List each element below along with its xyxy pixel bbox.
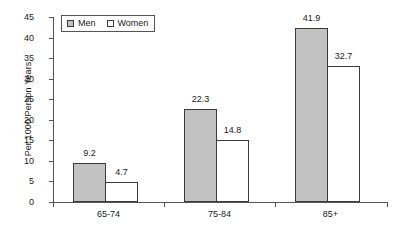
y-tick-label-20: 20 <box>4 116 34 125</box>
y-tick-label-25: 25 <box>4 95 34 104</box>
x-axis-line <box>53 202 388 203</box>
legend-label-men: Men <box>78 19 96 28</box>
bar-value-men-75-84: 22.3 <box>178 95 223 104</box>
x-tick-1 <box>164 203 165 207</box>
plot-area: 0 5 10 15 20 25 30 35 40 45 9.2 4.7 22.3 <box>53 17 388 203</box>
y-tick-15 <box>49 140 53 141</box>
x-category-label-0: 65-74 <box>86 210 131 219</box>
y-tick-40 <box>49 38 53 39</box>
bar-women-75-84 <box>216 140 249 202</box>
legend-swatch-women-icon <box>107 20 114 27</box>
y-tick-label-45: 45 <box>4 13 34 22</box>
x-category-label-1: 75-84 <box>197 210 242 219</box>
x-tick-0 <box>53 203 54 207</box>
y-tick-label-35: 35 <box>4 54 34 63</box>
chart-legend: Men Women <box>61 15 155 32</box>
y-axis-line <box>53 17 54 203</box>
bar-women-85-plus <box>327 66 360 202</box>
y-tick-35 <box>49 58 53 59</box>
bar-value-women-65-74: 4.7 <box>99 168 144 177</box>
bar-men-75-84 <box>184 109 217 202</box>
legend-entry-women: Women <box>107 19 149 28</box>
y-tick-20 <box>49 120 53 121</box>
bar-value-men-65-74: 9.2 <box>67 149 112 158</box>
x-category-label-2: 85+ <box>308 210 353 219</box>
y-tick-label-40: 40 <box>4 34 34 43</box>
bar-value-women-75-84: 14.8 <box>210 126 255 135</box>
x-tick-3 <box>387 203 388 207</box>
y-tick-5 <box>49 181 53 182</box>
y-tick-label-30: 30 <box>4 75 34 84</box>
y-tick-45 <box>49 17 53 18</box>
legend-swatch-men-icon <box>67 20 74 27</box>
y-tick-10 <box>49 161 53 162</box>
y-tick-25 <box>49 99 53 100</box>
x-tick-2 <box>275 203 276 207</box>
bar-chart: Per 1000 Person Years 0 5 10 15 20 25 30… <box>0 0 401 229</box>
y-tick-label-10: 10 <box>4 157 34 166</box>
bar-value-men-85-plus: 41.9 <box>289 14 334 23</box>
y-tick-label-15: 15 <box>4 136 34 145</box>
y-tick-30 <box>49 79 53 80</box>
y-tick-label-5: 5 <box>4 177 34 186</box>
bar-value-women-85-plus: 32.7 <box>321 52 366 61</box>
y-tick-label-0: 0 <box>4 198 34 207</box>
legend-entry-men: Men <box>67 19 96 28</box>
legend-label-women: Women <box>118 19 149 28</box>
bar-women-65-74 <box>105 182 138 202</box>
